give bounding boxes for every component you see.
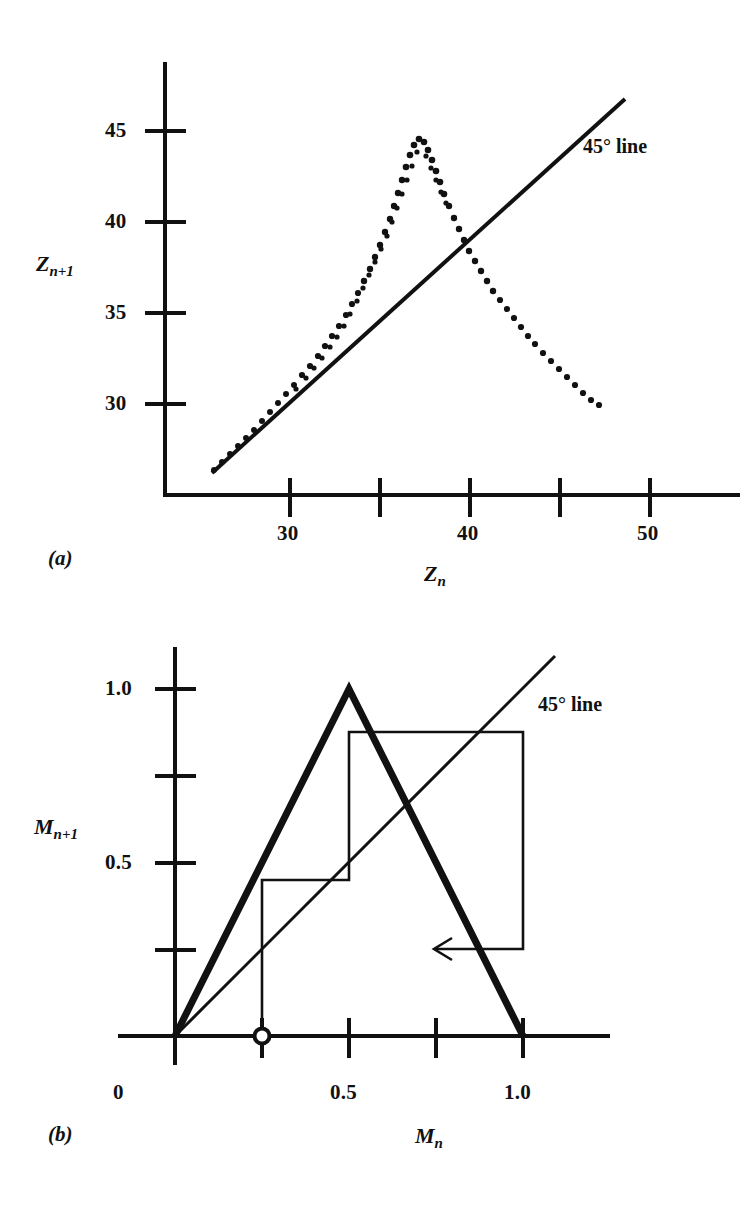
panel-a-x-ticks	[290, 478, 650, 517]
panel-b: 1.0 0.5 0 0.5 1.0 Mn+1 Mn 45° line (b)	[0, 600, 745, 1224]
panel-b-y-axis-label-sub: n+1	[54, 826, 78, 842]
panel-a-ytick-35: 35	[105, 302, 127, 323]
panel-b-ytick-1-0: 1.0	[105, 678, 132, 699]
panel-a-xtick-50: 50	[637, 523, 659, 544]
panel-b-x-axis-label-sub: n	[435, 1135, 443, 1151]
panel-a-y-axis-label: Zn+1	[36, 253, 74, 279]
panel-a-ytick-40: 40	[105, 211, 127, 232]
panel-a-y-axis-label-sub: n+1	[49, 263, 73, 279]
panel-a-x-axis-label: Zn	[424, 563, 446, 589]
panel-a: 45 40 35 30 30 40 50 Zn+1 Zn 45° line (a…	[0, 0, 745, 600]
panel-a-identity-line	[212, 99, 625, 473]
panel-a-ytick-45: 45	[105, 120, 127, 141]
panel-a-45-degree-line-label: 45° line	[583, 136, 647, 156]
panel-b-xtick-0-5: 0.5	[330, 1082, 357, 1103]
panel-b-initial-condition-marker	[255, 1029, 270, 1044]
panel-b-x-axis-label: Mn	[415, 1125, 443, 1151]
panel-a-x-axis-label-main: Z	[424, 561, 437, 586]
panel-b-x-axis-label-main: M	[415, 1123, 435, 1148]
panel-a-xtick-30: 30	[277, 523, 299, 544]
panel-b-ytick-0-5: 0.5	[105, 852, 132, 873]
panel-b-xtick-1-0: 1.0	[504, 1082, 531, 1103]
panel-a-y-axis-label-main: Z	[36, 251, 49, 276]
panel-b-y-axis-label-main: M	[34, 814, 54, 839]
panel-b-y-axis-label: Mn+1	[34, 816, 78, 842]
figure-container: 45 40 35 30 30 40 50 Zn+1 Zn 45° line (a…	[0, 0, 745, 1224]
panel-a-ytick-30: 30	[105, 393, 127, 414]
panel-b-label: (b)	[48, 1124, 73, 1145]
panel-a-x-axis-label-sub: n	[437, 573, 445, 589]
panel-a-xtick-40: 40	[457, 523, 479, 544]
panel-b-xtick-0: 0	[113, 1082, 124, 1103]
panel-a-label: (a)	[48, 548, 73, 569]
panel-b-45-degree-line-label: 45° line	[538, 694, 602, 714]
